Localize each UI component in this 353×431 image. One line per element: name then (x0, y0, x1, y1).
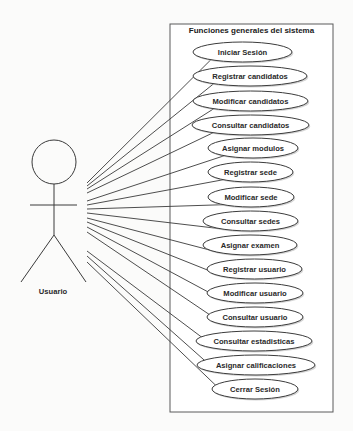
use-case-label: Asignar modulos (222, 144, 284, 153)
use-case: Consultar estadisticas (196, 331, 313, 352)
use-case-label: Consultar usuario (223, 313, 288, 322)
actor-right-leg-icon (54, 235, 86, 282)
actor-label: Usuario (39, 287, 68, 296)
actor-head-icon (32, 140, 76, 184)
actor-left-leg-icon (21, 235, 54, 282)
use-case-label: Asignar examen (221, 241, 280, 250)
use-case: Asignar examen (203, 235, 298, 256)
use-case-label: Consultar sedes (221, 217, 280, 226)
use-cases: Iniciar SesiónRegistrar candidatosModifi… (192, 42, 316, 400)
use-case: Modificar candidatos (193, 91, 309, 112)
use-case-diagram: Funciones generales del sistema Iniciar … (0, 0, 353, 431)
use-case: Modificar sede (208, 187, 295, 208)
use-case-label: Registrar sede (224, 168, 277, 177)
use-case-label: Consultar estadisticas (213, 337, 294, 346)
use-case-label: Iniciar Sesión (218, 48, 268, 57)
use-case-label: Consultar candidatos (212, 121, 290, 130)
use-case: Consultar usuario (207, 307, 304, 328)
use-case: Consultar sedes (203, 211, 299, 232)
use-case-label: Registrar candidatos (212, 72, 288, 81)
use-case: Consultar candidatos (192, 115, 310, 136)
use-case: Asignar modulos (208, 138, 299, 159)
use-case-label: Registrar usuario (223, 265, 286, 274)
use-case-label: Modificar sede (224, 193, 277, 202)
diagram-canvas: Funciones generales del sistema Iniciar … (0, 0, 353, 431)
system-title: Funciones generales del sistema (189, 26, 315, 35)
use-case: Cerrar Sesión (212, 379, 299, 400)
use-case-label: Modificar candidatos (213, 97, 289, 106)
use-case: Registrar candidatos (193, 66, 308, 87)
use-case: Registrar sede (208, 162, 294, 183)
use-case: Iniciar Sesión (193, 42, 293, 63)
use-case: Registrar usuario (207, 259, 303, 280)
use-case: Modificar usuario (207, 283, 304, 304)
use-case-label: Cerrar Sesión (230, 385, 280, 394)
actor-usuario: Usuario (21, 140, 86, 296)
use-case-label: Modificar usuario (223, 289, 287, 298)
use-case-label: Asignar calificaciones (216, 361, 296, 370)
use-case: Asignar calificaciones (197, 355, 316, 376)
